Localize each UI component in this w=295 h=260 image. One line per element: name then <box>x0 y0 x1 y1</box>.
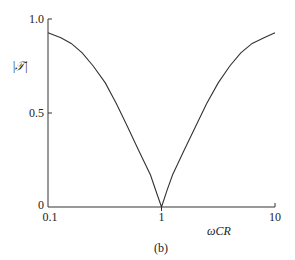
axes <box>48 19 275 211</box>
y-tick-label-0.5: 0.5 <box>29 106 44 120</box>
chart: 1.0 0.5 0 0.1 1 10 |𝒯| ωCR (b) <box>0 0 295 260</box>
magnitude-curve <box>48 33 275 207</box>
x-tick-label-0.1: 0.1 <box>43 210 58 224</box>
y-tick-label-1.0: 1.0 <box>29 12 44 26</box>
y-axis-label: |𝒯| <box>12 59 28 73</box>
x-axis-label: ωCR <box>207 224 231 238</box>
figure-caption: (b) <box>154 241 168 255</box>
x-tick-label-10: 10 <box>269 210 281 224</box>
x-tick-label-1: 1 <box>159 210 165 224</box>
